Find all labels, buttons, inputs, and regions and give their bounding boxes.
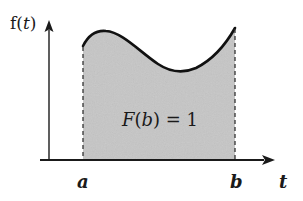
upper-bound-label: b <box>230 171 243 192</box>
x-axis-label: t <box>279 171 288 192</box>
lower-bound-label: a <box>77 171 89 192</box>
y-axis-label: f(t) <box>10 13 36 33</box>
probability-density-diagram: f(t) F(b) = 1 a b t <box>0 0 303 201</box>
shaded-area <box>83 28 235 160</box>
area-annotation: F(b) = 1 <box>121 109 198 130</box>
